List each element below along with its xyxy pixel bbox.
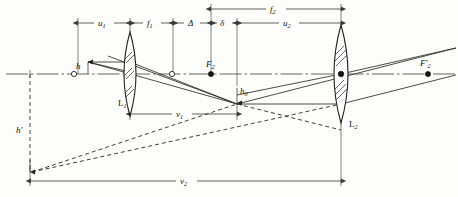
label-F2: F2 bbox=[205, 59, 215, 70]
label-bg-f2 bbox=[266, 2, 286, 15]
label-h0: h0 bbox=[240, 86, 249, 97]
label-h: h bbox=[76, 61, 81, 71]
ray-h0-to-lens2-center bbox=[237, 74, 341, 95]
ray-out-lower bbox=[341, 75, 456, 104]
dimension-f2: f2 bbox=[211, 2, 341, 15]
object-axis-point bbox=[71, 71, 76, 76]
optics-canvas: f2 u1 f1 Δ δ u2 bbox=[0, 0, 458, 197]
guide-lines-group bbox=[30, 4, 341, 186]
ray-out-upper bbox=[341, 48, 456, 74]
ray-chief-incident bbox=[88, 62, 237, 104]
dimension-row-main: u1 f1 Δ δ u2 bbox=[78, 16, 341, 29]
optics-diagram: f2 u1 f1 Δ δ u2 bbox=[0, 0, 458, 197]
point-labels-group: F2 F′2 bbox=[205, 58, 431, 70]
lens-L2: L2 bbox=[332, 25, 358, 130]
dimension-v2: v2 bbox=[31, 174, 341, 187]
lens-L1-label: L1 bbox=[118, 98, 127, 109]
focal-point-F2 bbox=[208, 71, 213, 76]
lens-L2-label: L2 bbox=[349, 119, 358, 130]
lens-L1: L1 bbox=[118, 32, 136, 116]
dimension-label-delta-cap: Δ bbox=[187, 18, 193, 28]
ray-virtual-continuation bbox=[237, 104, 341, 130]
label-F2-prime: F′2 bbox=[419, 58, 431, 69]
lens2-center-point bbox=[338, 71, 344, 77]
intermediate-image-point bbox=[169, 71, 174, 76]
focal-point-F2-prime bbox=[425, 71, 430, 76]
height-h-prime-group: h′ bbox=[16, 74, 30, 172]
ray-bundle-solid bbox=[88, 48, 456, 104]
label-h-prime: h′ bbox=[16, 125, 24, 135]
